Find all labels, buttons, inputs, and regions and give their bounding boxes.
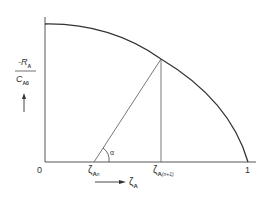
x-axis-label: ζA [129, 177, 138, 189]
y-label-numerator: -RA [18, 58, 31, 69]
arrow-right-icon [119, 180, 126, 184]
angle-arc [103, 148, 109, 162]
origin-label: 0 [37, 166, 42, 175]
diagonal-line [94, 59, 161, 162]
tick-label-zeta-an: ζAn [88, 165, 100, 177]
y-label-numerator-text: -R [18, 57, 28, 67]
arrow-up-icon [22, 93, 26, 99]
angle-label: α [110, 149, 114, 156]
tick-subsub: n [97, 171, 100, 177]
x-label-sub: A [133, 183, 137, 189]
y-label-denominator: CA0 [16, 75, 29, 86]
y-label-numerator-sub: A [28, 63, 32, 69]
tick-label-zeta-an1: ζA(n+1) [153, 165, 174, 177]
rate-curve [45, 24, 248, 162]
y-label-denominator-sub: A0 [23, 80, 29, 86]
x-end-label: 1 [245, 166, 250, 175]
tick-subsub: (n+1) [162, 171, 174, 177]
